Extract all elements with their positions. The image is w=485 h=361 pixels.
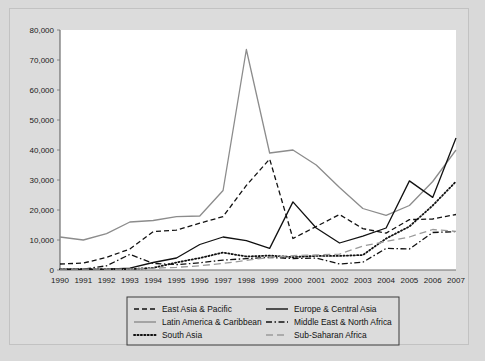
x-tick-label: 1993 — [121, 276, 139, 285]
y-tick-label: 70,000 — [30, 56, 55, 65]
line-chart: 010,00020,00030,00040,00050,00060,00070,… — [0, 0, 485, 361]
y-tick-label: 40,000 — [30, 146, 55, 155]
y-tick-label: 20,000 — [30, 206, 55, 215]
x-tick-label: 1991 — [74, 276, 92, 285]
x-tick-label: 2003 — [354, 276, 372, 285]
y-tick-label: 30,000 — [30, 176, 55, 185]
x-tick-label: 1998 — [237, 276, 255, 285]
y-tick-label: 60,000 — [30, 86, 55, 95]
legend-label: South Asia — [162, 330, 202, 340]
x-tick-label: 2002 — [331, 276, 349, 285]
legend-label: Europe & Central Asia — [294, 304, 377, 314]
x-tick-label: 1995 — [168, 276, 186, 285]
x-tick-label: 1992 — [98, 276, 116, 285]
y-axis-ticks: 010,00020,00030,00040,00050,00060,00070,… — [30, 26, 60, 275]
y-tick-label: 10,000 — [30, 236, 55, 245]
x-tick-label: 1997 — [214, 276, 232, 285]
x-tick-label: 1996 — [191, 276, 209, 285]
legend-label: East Asia & Pacific — [162, 304, 232, 314]
x-tick-label: 2000 — [284, 276, 302, 285]
legend-label: Sub-Saharan Africa — [294, 330, 367, 340]
legend-label: Middle East & North Africa — [294, 317, 392, 327]
x-tick-label: 1994 — [144, 276, 162, 285]
x-tick-label: 2005 — [401, 276, 419, 285]
x-tick-label: 2006 — [424, 276, 442, 285]
y-tick-label: 50,000 — [30, 116, 55, 125]
x-tick-label: 1990 — [51, 276, 69, 285]
y-tick-label: 0 — [50, 266, 55, 275]
y-tick-label: 80,000 — [30, 26, 55, 35]
chart-page: 010,00020,00030,00040,00050,00060,00070,… — [0, 0, 485, 361]
x-tick-label: 1999 — [261, 276, 279, 285]
x-tick-label: 2007 — [447, 276, 465, 285]
legend-label: Latin America & Caribbean — [162, 317, 262, 327]
x-tick-label: 2004 — [377, 276, 395, 285]
x-axis-ticks: 1990199119921993199419951996199719981999… — [51, 276, 465, 285]
x-tick-label: 2001 — [307, 276, 325, 285]
